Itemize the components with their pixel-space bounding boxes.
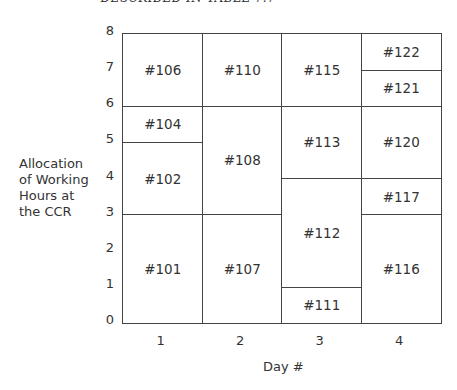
schedule-block: #104	[122, 106, 203, 144]
schedule-block: #101	[122, 214, 203, 324]
schedule-block: #107	[202, 214, 283, 324]
schedule-block: #121	[361, 69, 442, 107]
y-tick-label: 1	[103, 275, 117, 290]
y-tick-label: 2	[103, 239, 117, 254]
x-tick-label: 2	[230, 333, 250, 348]
figure-caption: DESCRIBED IN TABLE 7.7	[100, 0, 275, 5]
x-tick-label: 3	[310, 333, 330, 348]
x-tick-label: 1	[151, 333, 171, 348]
schedule-block: #116	[361, 214, 442, 324]
y-axis-label-line: the CCR	[19, 204, 99, 220]
y-axis-label-line: Allocation	[19, 156, 99, 172]
schedule-block: #115	[281, 33, 362, 107]
schedule-block: #108	[202, 106, 283, 216]
y-tick-label: 7	[103, 59, 117, 74]
schedule-block: #106	[122, 33, 203, 107]
y-axis-label: Allocation of Working Hours at the CCR	[19, 156, 99, 220]
schedule-plot-area: #101#102#104#106#107#108#110#111#112#113…	[123, 34, 441, 323]
y-tick-label: 8	[103, 23, 117, 38]
x-tick-label: 4	[389, 333, 409, 348]
schedule-block: #120	[361, 106, 442, 180]
schedule-block: #122	[361, 33, 442, 71]
y-tick-label: 3	[103, 203, 117, 218]
schedule-block: #112	[281, 178, 362, 288]
y-axis-label-line: of Working	[19, 172, 99, 188]
schedule-block: #117	[361, 178, 442, 216]
y-tick-label: 5	[103, 131, 117, 146]
schedule-block: #102	[122, 142, 203, 216]
schedule-block: #113	[281, 106, 362, 180]
y-tick-label: 4	[103, 167, 117, 182]
y-tick-label: 0	[103, 312, 117, 327]
x-axis-label: Day #	[263, 359, 304, 374]
schedule-block: #111	[281, 286, 362, 324]
schedule-block: #110	[202, 33, 283, 107]
y-tick-label: 6	[103, 95, 117, 110]
y-axis-label-line: Hours at	[19, 188, 99, 204]
